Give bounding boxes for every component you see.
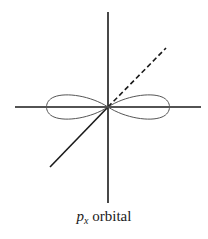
figure-caption: px orbital (0, 208, 208, 226)
caption-symbol: p (77, 208, 85, 224)
diagonal-axis-solid (50, 107, 108, 167)
diagonal-axis-dashed (108, 48, 166, 107)
px-orbital-diagram (0, 0, 208, 239)
caption-text: orbital (92, 208, 131, 224)
caption-subscript: x (84, 215, 88, 226)
